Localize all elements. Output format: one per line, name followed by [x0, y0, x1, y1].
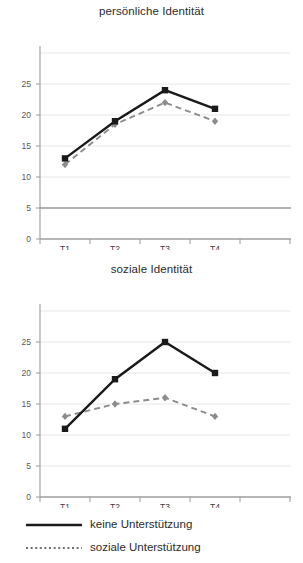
legend-item-keine-unterstutzung: keine Unterstützung	[0, 513, 303, 536]
chart-2-ytick-0: 0	[26, 492, 31, 502]
solid-line-icon	[24, 519, 86, 531]
chart-soziale-identitat: soziale Identität	[0, 258, 303, 516]
chart-personliche-identitat: persönliche Identität	[0, 0, 303, 258]
chart-2-xtick-t2: T2	[110, 502, 120, 508]
chart-1-title: persönliche Identität	[0, 0, 303, 20]
chart-1-y-ticks	[36, 84, 40, 208]
chart-1-xtick-t1: T1	[60, 244, 70, 250]
chart-2-xtick-t1: T1	[60, 502, 70, 508]
legend-label-keine-unterstutzung: keine Unterstützung	[86, 518, 192, 531]
chart-2-ytick-5: 5	[26, 461, 31, 471]
chart-1-ytick-15: 15	[22, 141, 32, 151]
chart-2-xtick-t3: T3	[160, 502, 170, 508]
chart-1-ytick-25: 25	[22, 79, 32, 89]
chart-1-xtick-t3: T3	[160, 244, 170, 250]
chart-2-ytick-15: 15	[22, 399, 32, 409]
chart-1-markers-dashed	[62, 99, 218, 168]
figure-legend: keine Unterstützung soziale Unterstützun…	[0, 513, 303, 559]
chart-2-gridlines	[40, 311, 290, 466]
chart-2-svg: 25 20 15 10 5 0 T1 T2 T3	[0, 278, 303, 508]
chart-1-ytick-5: 5	[26, 203, 31, 213]
chart-2-markers-solid	[62, 339, 218, 432]
legend-item-soziale-unterstutzung: soziale Unterstützung	[0, 536, 303, 559]
chart-2-y-ticks	[36, 342, 40, 466]
chart-1-series-keine-unterstutzung	[65, 90, 215, 158]
chart-1-ytick-20: 20	[22, 110, 32, 120]
chart-2-plot-area: 25 20 15 10 5 0 T1 T2 T3	[0, 278, 303, 508]
chart-2-ytick-20: 20	[22, 368, 32, 378]
chart-2-ytick-25: 25	[22, 337, 32, 347]
chart-1-ytick-0: 0	[26, 234, 31, 244]
chart-1-markers-solid	[62, 87, 218, 162]
chart-1-xtick-t4: T4	[210, 244, 220, 250]
chart-1-svg: 25 20 15 10 5 0 T1	[0, 20, 303, 250]
chart-1-gridlines	[40, 53, 290, 208]
chart-2-series-keine-unterstutzung	[65, 342, 215, 429]
chart-1-series-soziale-unterstutzung	[65, 103, 215, 165]
chart-2-ytick-10: 10	[22, 430, 32, 440]
dotted-line-icon	[24, 542, 86, 554]
chart-2-title: soziale Identität	[0, 258, 303, 278]
chart-1-ytick-10: 10	[22, 172, 32, 182]
figure-container: persönliche Identität	[0, 0, 303, 563]
legend-label-soziale-unterstutzung: soziale Unterstützung	[86, 541, 201, 554]
chart-1-plot-area: 25 20 15 10 5 0 T1	[0, 20, 303, 250]
chart-1-xtick-t2: T2	[110, 244, 120, 250]
chart-2-xtick-t4: T4	[210, 502, 220, 508]
